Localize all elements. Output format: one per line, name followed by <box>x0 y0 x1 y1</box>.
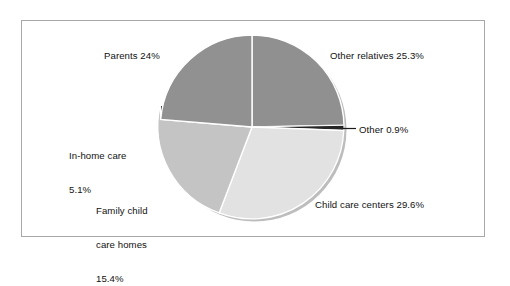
slice-label-parents: Parents 24% <box>104 50 160 61</box>
pie-slice-parents <box>161 35 252 127</box>
slice-label-family-child-care-homes: Family child care homes 15.4% <box>96 182 148 286</box>
slice-label-family-line1: Family child <box>96 205 148 216</box>
slice-label-family-line3: 15.4% <box>96 273 148 284</box>
slice-label-other: Other 0.9% <box>359 124 408 135</box>
pie-slice-other-relatives <box>252 35 344 127</box>
slice-label-other-relatives: Other relatives 25.3% <box>330 50 424 61</box>
slice-label-family-line2: care homes <box>96 239 148 250</box>
slice-label-in-home-care-line1: In-home care <box>69 150 126 161</box>
slice-label-child-care-centers: Child care centers 29.6% <box>315 199 424 210</box>
pie-slices <box>158 35 344 219</box>
